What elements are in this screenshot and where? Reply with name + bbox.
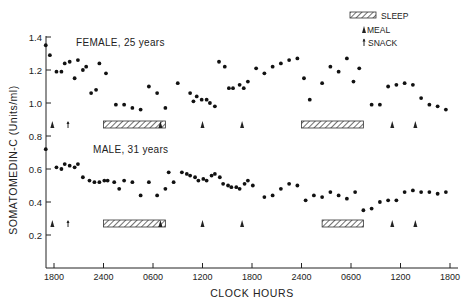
data-point (97, 180, 101, 184)
data-point (328, 65, 332, 69)
y-tick-label: 1.2 (29, 65, 42, 76)
x-tick-label: 0600 (143, 272, 163, 282)
data-point (337, 70, 341, 74)
meal-icon (390, 220, 394, 227)
data-point (444, 190, 448, 194)
data-point (427, 103, 431, 107)
female-series-label: FEMALE, 25 years (76, 37, 165, 48)
y-axis-title: SOMATOMEDIN-C (Units/ml) (7, 85, 19, 234)
meal-icon (240, 220, 244, 227)
data-point (361, 208, 365, 212)
data-point (251, 184, 255, 188)
male-series-label: MALE, 31 years (93, 144, 168, 155)
x-tick-label: 0600 (341, 272, 361, 282)
sleep-legend-swatch (350, 12, 376, 18)
data-point (76, 162, 80, 166)
data-point (97, 62, 101, 66)
data-point (419, 96, 423, 100)
data-point (243, 182, 247, 186)
data-point (378, 103, 382, 107)
data-point (112, 180, 116, 184)
data-point (117, 187, 121, 191)
data-point (378, 200, 382, 204)
data-point (188, 174, 192, 178)
data-point (386, 198, 390, 202)
y-ticks: 0.20.40.60.81.01.21.4 (29, 32, 51, 241)
data-point (210, 174, 214, 178)
data-point (227, 86, 231, 90)
data-point (81, 68, 85, 72)
data-point (104, 71, 108, 75)
data-point (320, 81, 324, 85)
data-point (172, 180, 176, 184)
data-point (89, 91, 93, 95)
data-point (287, 182, 291, 186)
data-point (226, 184, 230, 188)
data-point (320, 195, 324, 199)
data-point (411, 83, 415, 87)
data-point (337, 194, 341, 198)
data-point (94, 88, 98, 92)
data-point (279, 62, 283, 66)
data-point (130, 106, 134, 110)
data-points (44, 43, 448, 227)
data-point (217, 60, 221, 64)
meal-icon (240, 121, 244, 128)
y-tick-label: 0.2 (29, 230, 42, 241)
meal-legend-label: MEAL (367, 25, 390, 35)
x-tick-label: 1800 (440, 272, 460, 282)
data-point (218, 175, 222, 179)
data-point (205, 179, 209, 183)
sleep-bar (302, 121, 364, 128)
data-point (213, 104, 217, 108)
data-point (44, 43, 48, 47)
data-point (411, 189, 415, 193)
data-point (352, 80, 356, 84)
data-point (295, 184, 299, 188)
x-tick-label: 1800 (242, 272, 262, 282)
x-tick-label: 1200 (192, 272, 212, 282)
snack-icon (67, 121, 70, 128)
meal-icon (50, 121, 54, 128)
data-point (436, 104, 440, 108)
data-point (163, 187, 167, 191)
data-point (155, 194, 159, 198)
data-point (188, 91, 192, 95)
meal-icon (362, 26, 366, 33)
somatomedin-chart: 0.20.40.60.81.01.21.4 180024000600120018… (0, 0, 472, 302)
data-point (76, 58, 80, 62)
female-series (44, 43, 448, 128)
data-point (73, 76, 77, 80)
axes: 0.20.40.60.81.01.21.4 180024000600120018… (29, 32, 460, 283)
snack-icon (363, 39, 366, 47)
data-point (242, 86, 246, 90)
data-point (234, 185, 238, 189)
data-point (427, 190, 431, 194)
data-point (63, 62, 67, 66)
data-point (205, 98, 209, 102)
data-point (345, 57, 349, 61)
data-point (147, 85, 151, 89)
data-point (436, 192, 440, 196)
data-point (180, 170, 184, 174)
meal-icon (413, 121, 417, 128)
snack-icon (67, 220, 70, 227)
male-series (44, 147, 448, 227)
data-point (88, 179, 92, 183)
data-point (304, 198, 308, 202)
y-tick-label: 0.6 (29, 164, 42, 175)
data-point (114, 103, 118, 107)
sleep-bar (322, 220, 363, 227)
data-point (106, 179, 110, 183)
data-point (444, 108, 448, 112)
data-point (246, 179, 250, 183)
data-point (163, 106, 167, 110)
data-point (229, 185, 233, 189)
data-point (370, 207, 374, 211)
data-point (223, 65, 227, 69)
data-point (200, 98, 204, 102)
data-point (102, 179, 106, 183)
data-point (130, 180, 134, 184)
x-tick-label: 1800 (44, 272, 64, 282)
data-point (287, 58, 291, 62)
